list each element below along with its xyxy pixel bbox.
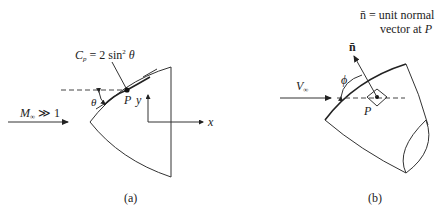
- body-lower-edge-b: [325, 120, 406, 173]
- point-p-label-b: P: [363, 104, 372, 118]
- velocity-label: V∞: [296, 79, 308, 94]
- point-p-label-a: P: [123, 93, 132, 107]
- phi-label: ϕ: [341, 73, 347, 87]
- mach-label: M∞ ≫ 1: [19, 106, 60, 121]
- panel-b: n̄ = unit normal vector at P V∞ n̄ ϕ P (…: [280, 8, 435, 205]
- base-ellipse: [403, 120, 429, 173]
- point-p-a: [124, 87, 129, 92]
- diagram-canvas: M∞ ≫ 1 Cp = 2 sin2 θ θ P y x (a) n̄ = un…: [0, 0, 441, 211]
- normal-note-line2: vector at P: [380, 22, 433, 36]
- normal-note-line1: n̄ = unit normal: [360, 8, 435, 22]
- cp-leader-line: [112, 62, 126, 88]
- x-axis-label: x: [207, 115, 214, 129]
- caption-a: (a): [124, 191, 137, 205]
- normal-vector-label: n̄: [349, 40, 356, 54]
- caption-b: (b): [368, 191, 382, 205]
- theta-arc: [99, 92, 105, 104]
- theta-label: θ: [91, 96, 97, 108]
- panel-a: M∞ ≫ 1 Cp = 2 sin2 θ θ P y x (a): [8, 48, 214, 205]
- y-axis-label: y: [135, 93, 142, 107]
- pressure-coefficient-label: Cp = 2 sin2 θ: [75, 48, 135, 63]
- body-right-edge-b: [406, 64, 428, 125]
